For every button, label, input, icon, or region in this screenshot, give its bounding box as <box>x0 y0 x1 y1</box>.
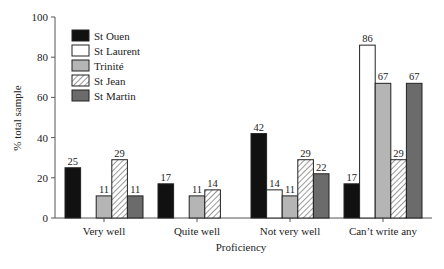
bar-value-label: 29 <box>393 148 404 159</box>
bar <box>406 83 422 218</box>
bar-value-label: 29 <box>300 148 311 159</box>
y-axis: 020406080100 <box>32 11 56 224</box>
bar <box>360 45 376 218</box>
y-tick-label: 20 <box>37 172 49 184</box>
bar <box>96 196 112 218</box>
legend-label: St Laurent <box>94 45 140 57</box>
bar <box>298 160 314 218</box>
bar-value-label: 11 <box>99 184 109 195</box>
bar-value-label: 67 <box>378 71 389 82</box>
legend-swatch <box>72 90 89 101</box>
legend-label: St Ouen <box>94 30 130 42</box>
bar-value-label: 42 <box>254 122 265 133</box>
y-tick-label: 80 <box>37 51 49 63</box>
y-tick-label: 60 <box>37 91 49 103</box>
bar-value-label: 86 <box>362 33 373 44</box>
bar-chart: 020406080100 Very wellQuite wellNot very… <box>0 0 444 269</box>
legend: St OuenSt LaurentTrinitéSt JeanSt Martin <box>72 30 140 102</box>
bar-value-label: 11 <box>285 184 295 195</box>
y-tick-label: 0 <box>43 212 49 224</box>
bar <box>267 190 283 218</box>
legend-swatch <box>72 75 89 86</box>
bar-value-label: 14 <box>207 178 218 189</box>
bar-value-label: 14 <box>269 178 280 189</box>
bar <box>375 83 391 218</box>
bar <box>251 134 267 218</box>
bar-value-label: 25 <box>68 156 79 167</box>
bar <box>65 168 81 218</box>
bar <box>189 196 205 218</box>
y-axis-title: % total sample <box>11 85 23 150</box>
bar <box>344 184 360 218</box>
legend-swatch <box>72 45 89 56</box>
bar <box>158 184 174 218</box>
x-axis: Very wellQuite wellNot very wellCan’t wr… <box>55 218 432 237</box>
bar-value-label: 17 <box>161 172 172 183</box>
bar-value-label: 11 <box>192 184 202 195</box>
y-tick-label: 100 <box>32 11 49 23</box>
legend-label: St Jean <box>94 75 126 87</box>
bar-value-label: 17 <box>347 172 358 183</box>
bar-value-label: 11 <box>130 184 140 195</box>
bar <box>205 190 221 218</box>
bar-value-label: 22 <box>316 162 327 173</box>
bar <box>127 196 143 218</box>
x-category-label: Very well <box>83 225 125 237</box>
x-category-label: Not very well <box>260 225 320 237</box>
legend-label: Trinité <box>94 60 124 72</box>
bar <box>313 174 329 218</box>
bar <box>112 160 128 218</box>
bar <box>282 196 298 218</box>
bar-value-label: 67 <box>409 71 420 82</box>
x-category-label: Can’t write any <box>349 225 418 237</box>
y-tick-label: 40 <box>37 132 49 144</box>
bar-value-label: 29 <box>114 148 125 159</box>
legend-swatch <box>72 30 89 41</box>
x-category-label: Quite well <box>174 225 220 237</box>
bar <box>391 160 407 218</box>
x-axis-title: Proficiency <box>216 241 267 253</box>
legend-swatch <box>72 60 89 71</box>
legend-label: St Martin <box>94 90 136 102</box>
